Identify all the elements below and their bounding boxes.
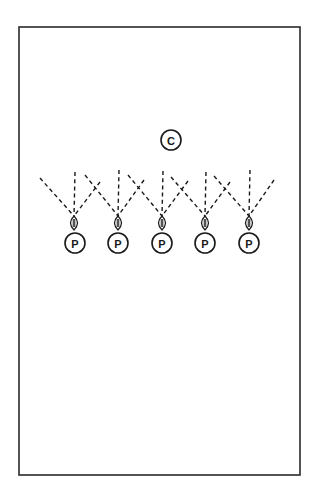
- coach-marker: C: [161, 130, 181, 150]
- player-label: P: [114, 238, 121, 250]
- player-marker: P: [195, 233, 215, 253]
- coach-label: C: [167, 135, 175, 147]
- football-icon: [246, 216, 253, 230]
- player-marker: P: [108, 233, 128, 253]
- football-icon: [115, 216, 122, 230]
- player-marker: P: [65, 233, 85, 253]
- player-marker: P: [239, 233, 259, 253]
- drill-diagram: PPPPP C: [0, 0, 312, 497]
- player-label: P: [158, 238, 165, 250]
- player-marker: P: [152, 233, 172, 253]
- football-icon: [71, 216, 78, 230]
- football-icon: [202, 216, 209, 230]
- football-icon: [159, 216, 166, 230]
- player-label: P: [245, 238, 252, 250]
- player-label: P: [201, 238, 208, 250]
- player-label: P: [71, 238, 78, 250]
